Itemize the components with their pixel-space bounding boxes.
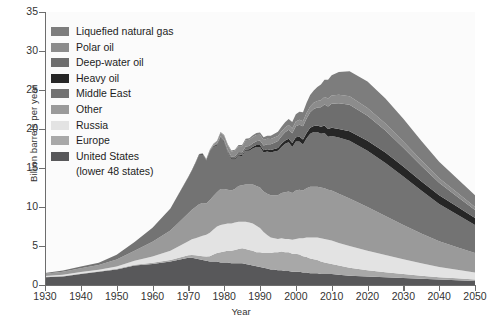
legend-item: Polar oil: [51, 40, 174, 56]
legend-item: Russia: [51, 118, 174, 134]
x-tick-label: 1930: [25, 291, 65, 302]
y-tick-mark: [39, 246, 45, 247]
legend-item: Liquefied natural gas: [51, 24, 174, 40]
x-tick-label: 2050: [455, 291, 491, 302]
y-tick-mark: [39, 12, 45, 13]
legend: Liquefied natural gasPolar oilDeep-water…: [51, 24, 174, 178]
legend-swatch: [51, 58, 69, 67]
x-tick-mark: [296, 285, 297, 291]
x-tick-label: 1960: [133, 291, 173, 302]
legend-label: Polar oil: [76, 40, 114, 56]
x-tick-mark: [439, 285, 440, 291]
legend-label: Deep-water oil: [76, 55, 144, 71]
y-tick-mark: [39, 129, 45, 130]
legend-label: Other: [76, 102, 102, 118]
legend-item: Other: [51, 102, 174, 118]
legend-label: Europe: [76, 133, 110, 149]
legend-item: Middle East: [51, 86, 174, 102]
y-tick-mark: [39, 285, 45, 286]
legend-swatch: [51, 121, 69, 130]
x-tick-mark: [153, 285, 154, 291]
legend-swatch: [51, 27, 69, 36]
legend-item: Europe: [51, 133, 174, 149]
x-tick-label: 1950: [97, 291, 137, 302]
x-tick-label: 2020: [348, 291, 388, 302]
legend-label: Heavy oil: [76, 71, 119, 87]
x-tick-label: 2000: [276, 291, 316, 302]
legend-item: Heavy oil: [51, 71, 174, 87]
legend-swatch: [51, 136, 69, 145]
legend-swatch: [51, 74, 69, 83]
legend-label: United States: [76, 149, 139, 165]
x-tick-label: 1940: [61, 291, 101, 302]
x-tick-mark: [81, 285, 82, 291]
x-tick-mark: [475, 285, 476, 291]
y-tick-mark: [39, 168, 45, 169]
x-tick-mark: [332, 285, 333, 291]
legend-item: United States: [51, 149, 174, 165]
x-tick-mark: [368, 285, 369, 291]
legend-swatch: [51, 89, 69, 98]
x-tick-mark: [224, 285, 225, 291]
x-tick-mark: [260, 285, 261, 291]
y-tick-mark: [39, 207, 45, 208]
legend-label: Russia: [76, 118, 108, 134]
legend-item: Deep-water oil: [51, 55, 174, 71]
x-tick-label: 1990: [240, 291, 280, 302]
x-axis-title: Year: [0, 306, 482, 317]
legend-label: Liquefied natural gas: [76, 24, 174, 40]
x-tick-label: 2030: [383, 291, 423, 302]
x-tick-mark: [45, 285, 46, 291]
x-tick-label: 2040: [419, 291, 459, 302]
x-tick-mark: [403, 285, 404, 291]
x-tick-mark: [188, 285, 189, 291]
x-tick-label: 2010: [312, 291, 352, 302]
legend-swatch: [51, 43, 69, 52]
legend-label: Middle East: [76, 86, 131, 102]
y-tick-mark: [39, 90, 45, 91]
legend-sublabel: (lower 48 states): [76, 164, 174, 178]
legend-swatch: [51, 105, 69, 114]
legend-swatch: [51, 152, 69, 161]
y-tick-mark: [39, 51, 45, 52]
x-tick-label: 1970: [168, 291, 208, 302]
x-tick-label: 1980: [204, 291, 244, 302]
x-tick-mark: [117, 285, 118, 291]
